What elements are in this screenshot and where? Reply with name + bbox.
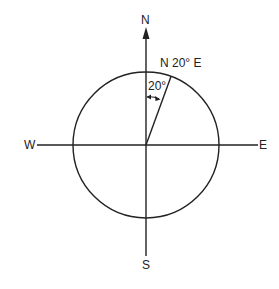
angle-label: 20°	[148, 80, 166, 92]
north-arrow-icon	[143, 27, 150, 39]
south-label: S	[142, 259, 150, 271]
angle-arrow-right-icon	[155, 96, 161, 101]
east-label: E	[259, 139, 267, 151]
north-label: N	[141, 14, 150, 26]
west-label: W	[24, 139, 35, 151]
bearing-label: N 20° E	[160, 57, 201, 69]
compass-figure	[0, 0, 279, 289]
angle-arrow-left-icon	[147, 95, 152, 100]
